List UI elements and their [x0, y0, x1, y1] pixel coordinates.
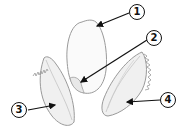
kernel-shape — [67, 20, 107, 93]
label-4: 4 — [160, 92, 176, 108]
label-2: 2 — [146, 30, 162, 46]
right-hull-shape — [102, 52, 151, 116]
label-3: 3 — [11, 102, 27, 118]
arrow-1 — [97, 13, 129, 26]
label-1: 1 — [129, 4, 145, 20]
rice-grain-diagram — [0, 0, 191, 134]
